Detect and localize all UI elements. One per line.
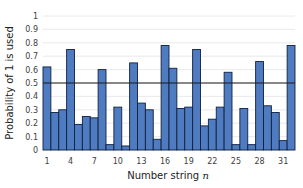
bar	[279, 141, 287, 150]
bar	[177, 108, 185, 150]
bar	[153, 139, 161, 150]
x-tick-label: 1	[44, 157, 49, 166]
y-tick-label: 0.7	[25, 52, 38, 61]
bar	[43, 67, 51, 150]
bar	[161, 45, 169, 150]
bar	[232, 145, 240, 150]
x-tick-label: 19	[184, 157, 194, 166]
bar	[90, 118, 98, 150]
bar	[169, 68, 177, 150]
y-tick-label: 0.3	[25, 106, 38, 115]
bar	[114, 107, 122, 150]
y-axis-title: Probability of 1 is used	[4, 26, 15, 140]
x-tick-label: 31	[278, 157, 288, 166]
x-tick-label: 22	[207, 157, 217, 166]
bar	[75, 125, 83, 150]
bar	[256, 62, 264, 150]
y-tick-label: 0.1	[25, 133, 38, 142]
x-axis-ticks: 1471013161922252831	[44, 157, 288, 166]
bar	[138, 103, 146, 150]
bar	[271, 112, 279, 150]
y-axis-ticks: 00.10.20.30.40.50.60.70.80.91	[25, 12, 38, 155]
x-axis-title-text: Number string	[127, 170, 202, 181]
y-tick-label: 0.2	[25, 119, 38, 128]
bar	[130, 63, 138, 150]
x-tick-label: 28	[254, 157, 264, 166]
bars	[43, 45, 295, 150]
bar	[98, 70, 106, 150]
x-tick-label: 7	[92, 157, 97, 166]
y-tick-label: 0.5	[25, 79, 38, 88]
bar	[248, 145, 256, 150]
y-tick-label: 0.9	[25, 25, 38, 34]
bar	[185, 107, 193, 150]
x-tick-label: 4	[68, 157, 73, 166]
x-tick-label: 25	[231, 157, 241, 166]
bar	[59, 110, 67, 150]
bar	[145, 110, 153, 150]
bar	[106, 145, 114, 150]
x-axis-title-var: n	[202, 170, 208, 181]
x-tick-label: 16	[160, 157, 170, 166]
y-tick-label: 0.8	[25, 39, 38, 48]
y-tick-label: 1	[33, 12, 38, 21]
bar	[240, 108, 248, 150]
y-tick-label: 0.4	[25, 92, 38, 101]
bar	[51, 112, 59, 150]
bar	[264, 106, 272, 150]
x-tick-label: 13	[136, 157, 146, 166]
bar	[122, 146, 130, 150]
bar	[67, 50, 75, 151]
x-axis-title: Number string n	[127, 170, 209, 181]
y-tick-label: 0.6	[25, 66, 38, 75]
bar	[208, 119, 216, 150]
bar	[224, 72, 232, 150]
bar	[201, 126, 209, 150]
bar	[193, 50, 201, 151]
bar	[82, 117, 90, 151]
bar-chart: 00.10.20.30.40.50.60.70.80.91 1471013161…	[0, 0, 303, 188]
y-tick-label: 0	[33, 146, 38, 155]
bar	[287, 45, 295, 150]
bar	[216, 107, 224, 150]
x-tick-label: 10	[113, 157, 123, 166]
